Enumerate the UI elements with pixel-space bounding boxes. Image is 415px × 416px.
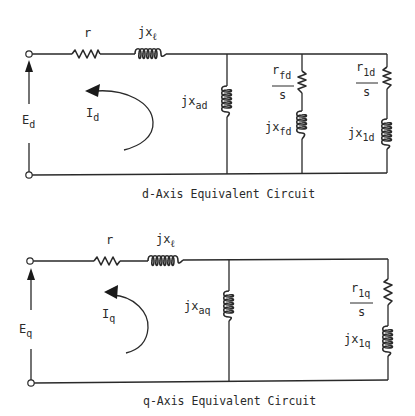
q-label-Eq: Eq — [19, 322, 32, 339]
q-series-inductor — [148, 256, 183, 266]
d-label-r: r — [84, 26, 91, 40]
q-label-xl: jxℓ — [156, 232, 175, 249]
q-label-r: r — [106, 233, 113, 247]
d-field-inductor — [297, 111, 307, 139]
d-damper-inductor — [382, 119, 392, 149]
q-label-xaq: jxaq — [184, 299, 211, 316]
d-field-resistor — [298, 71, 306, 93]
d-voltage-arrowhead — [25, 60, 33, 72]
d-label-rfd: rfd — [272, 63, 291, 81]
d-top-terminal — [26, 51, 32, 57]
d-label-rfd-den: s — [279, 88, 286, 102]
q-label-x1q: jx1q — [344, 332, 371, 349]
d-axis-caption: d-Axis Equivalent Circuit — [142, 187, 315, 201]
q-damper-resistor — [384, 279, 392, 305]
q-damper-inductor — [383, 326, 393, 356]
d-series-resistor — [72, 50, 100, 58]
q-mag-inductor — [224, 291, 234, 321]
q-series-resistor — [94, 257, 120, 265]
q-current-arc — [112, 295, 148, 353]
q-bottom-terminal — [28, 380, 34, 386]
d-axis-circuit: r jxℓ jxad rfd s jxfd r1d s jx1d Ed Id d… — [22, 25, 392, 201]
q-top-terminal — [27, 258, 33, 264]
q-top-wire — [33, 259, 388, 261]
d-label-Ed: Ed — [22, 113, 35, 130]
d-series-inductor — [135, 49, 166, 59]
d-label-Id: Id — [86, 106, 99, 123]
q-voltage-arrowhead — [27, 268, 35, 280]
d-label-xad: jxad — [181, 94, 208, 111]
d-bottom-wire — [32, 173, 387, 175]
q-label-r1q: r1q — [351, 281, 370, 299]
q-current-arrowhead — [104, 285, 118, 299]
d-damper-resistor — [383, 67, 391, 89]
d-label-x1d: jx1d — [348, 126, 375, 143]
q-label-Iq: Iq — [102, 307, 115, 324]
d-label-r1d: r1d — [356, 60, 375, 78]
equivalent-circuits-diagram: r jxℓ jxad rfd s jxfd r1d s jx1d Ed Id d… — [0, 0, 415, 416]
d-label-r1d-den: s — [363, 85, 370, 99]
d-label-xl: jxℓ — [138, 25, 157, 42]
d-bottom-terminal — [26, 172, 32, 178]
q-label-r1q-den: s — [358, 305, 365, 319]
d-mag-inductor — [222, 86, 232, 117]
d-label-xfd: jxfd — [265, 120, 292, 137]
d-current-arc — [96, 91, 153, 150]
d-current-arrowhead — [85, 84, 100, 97]
q-axis-caption: q-Axis Equivalent Circuit — [143, 394, 316, 408]
q-axis-circuit: r jxℓ jxaq r1q s jx1q Eq Iq q-Axis Equiv… — [19, 232, 393, 408]
q-bottom-wire — [34, 380, 388, 383]
